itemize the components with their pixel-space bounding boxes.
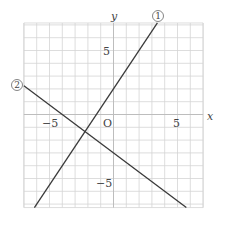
line-1-label-text: 1 [155,11,161,21]
line-2-label: 2 [12,80,23,91]
x-tick-label-neg5: −5 [42,117,58,130]
y-axis-label: y [110,10,118,23]
origin-label: O [103,117,112,130]
plot-area: x y O −5 5 5 −5 1 2 [0,0,225,228]
line-1-label: 1 [153,11,164,22]
y-tick-label-pos5: 5 [103,45,110,58]
line-2-label-text: 2 [14,80,20,90]
coordinate-plane-figure: x y O −5 5 5 −5 1 2 [0,0,225,228]
y-tick-label-neg5: −5 [96,177,112,190]
x-axis-label: x [207,110,214,123]
x-tick-label-pos5: 5 [173,117,180,130]
